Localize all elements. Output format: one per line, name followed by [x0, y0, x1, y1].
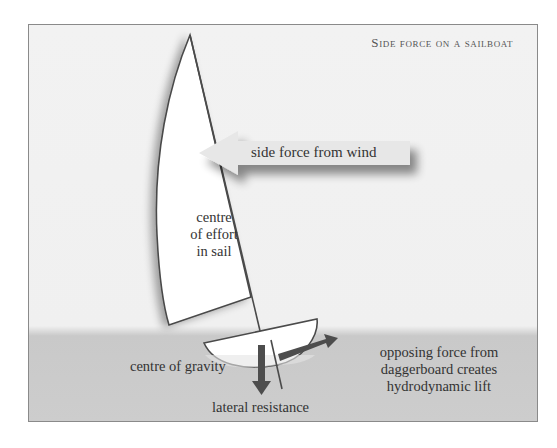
label-centre-of-effort-line3: in sail: [179, 243, 249, 260]
label-centre-of-effort-line2: of effort: [179, 226, 249, 243]
diagram-title: Side force on a sailboat: [371, 35, 513, 51]
label-opposing-force: opposing force from daggerboard creates …: [364, 344, 514, 395]
label-opposing-line3: hydrodynamic lift: [364, 378, 514, 395]
label-centre-of-effort-line1: centre: [179, 209, 249, 226]
diagram-frame: Side force on a sailboat side force from…: [28, 24, 538, 422]
label-opposing-line1: opposing force from: [364, 344, 514, 361]
label-centre-of-effort: centre of effort in sail: [179, 209, 249, 260]
sail: [156, 35, 251, 325]
label-opposing-line2: daggerboard creates: [364, 361, 514, 378]
label-centre-of-gravity: centre of gravity: [130, 358, 226, 375]
label-side-force: side force from wind: [251, 144, 376, 161]
label-lateral-resistance: lateral resistance: [212, 399, 309, 416]
